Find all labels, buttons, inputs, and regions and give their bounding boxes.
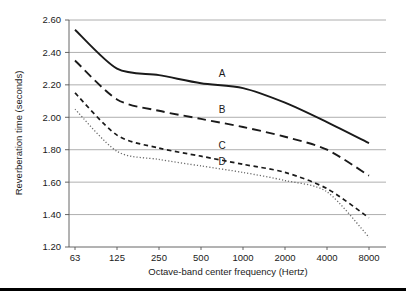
x-tick-label: 125 [109,252,125,263]
series-path-group [75,30,369,238]
x-tick-label: 500 [193,252,209,263]
gridline-group [69,20,386,215]
series-label-c: C [218,140,225,151]
series-line-a [75,30,369,144]
reverberation-time-chart-figure: 1.201.401.601.802.002.202.402.60 6312525… [0,0,406,296]
x-tick-label: 8000 [358,252,379,263]
x-axis-title: Octave-band center frequency (Hertz) [148,266,307,277]
x-tick-label: 2000 [274,252,295,263]
y-tick-label: 1.20 [43,241,62,252]
chart-canvas: 1.201.401.601.802.002.202.402.60 6312525… [0,0,406,296]
x-tick-label: 4000 [316,252,337,263]
x-tick-label: 250 [151,252,167,263]
y-tick-label: 1.40 [43,209,62,220]
y-tick-label: 2.00 [43,112,62,123]
x-tick-label: 63 [70,252,81,263]
series-label-d: D [218,156,225,167]
y-tick-label: 2.20 [43,79,62,90]
y-tick-label: 1.60 [43,177,62,188]
y-tick-label-group: 1.201.401.601.802.002.202.402.60 [43,14,62,252]
x-tick-label-group: 631252505001000200040008000 [70,252,380,263]
y-tick-label: 2.40 [43,47,62,58]
y-tick-label: 2.60 [43,14,62,25]
y-axis-title: Reverberation time (seconds) [13,71,24,196]
y-tickmark-group [65,20,69,247]
y-tick-label: 1.80 [43,144,62,155]
bottom-divider-rule [0,288,406,291]
series-line-d [75,109,369,237]
series-label-b: B [219,104,226,115]
x-tick-label: 1000 [232,252,253,263]
series-label-a: A [219,68,226,79]
